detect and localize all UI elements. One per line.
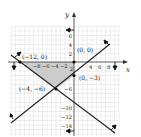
x-axis-label: x [126, 66, 130, 74]
y-axis-label: y [64, 11, 70, 19]
vertex-point [54, 87, 57, 90]
inequality-graph: y x −8 −6 −4 −2 4 6 8 6 4 2 2 −6 −10 −12… [0, 0, 141, 137]
y-tick: −6 [64, 86, 72, 92]
vertex-label: (−12, 0) [22, 53, 47, 60]
y-tick: −14 [61, 123, 73, 129]
y-tick: 6 [69, 33, 72, 39]
vertex-label: (0, −3) [79, 74, 100, 81]
x-axis-arrow-icon [123, 60, 128, 64]
y-tick: 2 [70, 66, 73, 72]
vertex-label: (−4, −6) [19, 85, 45, 92]
y-tick: −10 [61, 105, 72, 111]
y-tick: −12 [61, 114, 72, 120]
x-tick: −6 [42, 63, 50, 69]
x-tick: −2 [60, 63, 68, 69]
vertex-label: (0, 0) [77, 46, 93, 53]
y-tick: 4 [69, 42, 73, 48]
x-tick: 4 [89, 64, 93, 70]
x-tick: −4 [51, 63, 59, 69]
x-tick: −8 [33, 63, 41, 69]
x-tick: 6 [98, 64, 101, 70]
x-tick: 8 [107, 64, 110, 70]
y-tick: 2 [69, 51, 72, 57]
y-axis-arrow-icon [72, 12, 76, 17]
vertex-point [72, 60, 75, 63]
vertex-point [72, 74, 75, 77]
vertex-point [18, 60, 21, 63]
